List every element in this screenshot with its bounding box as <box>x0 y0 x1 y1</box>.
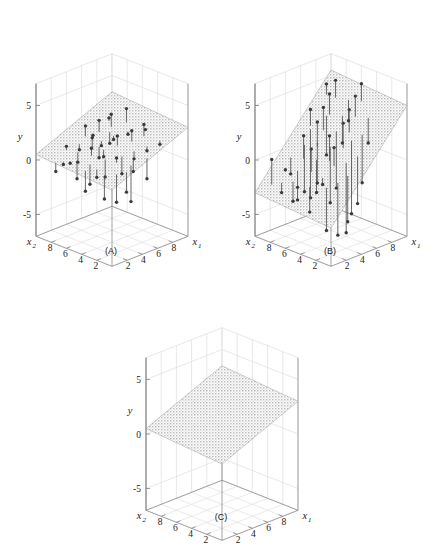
data-point <box>284 168 287 171</box>
data-point <box>341 141 344 144</box>
data-point <box>325 153 328 156</box>
data-point <box>367 141 370 144</box>
x1-axis-tick-label: 2 <box>126 261 131 271</box>
panel-c-caption: (C) <box>110 512 332 522</box>
data-point <box>115 156 118 159</box>
y-axis-tick-label: 5 <box>245 101 250 111</box>
x2-axis-tick <box>316 259 320 261</box>
y-axis-title: y <box>127 405 133 416</box>
panel-b-plot: 50-5y2468x18642x2 <box>219 8 441 248</box>
y-axis-title: y <box>17 131 23 142</box>
data-point <box>325 82 328 85</box>
data-point <box>132 157 135 160</box>
y-axis-tick-label: -5 <box>242 210 250 220</box>
data-point <box>325 229 328 232</box>
data-point <box>302 134 305 137</box>
x1-axis-tick-label: 4 <box>360 255 365 265</box>
data-point <box>116 134 119 137</box>
panel-b: 50-5y2468x18642x2 <box>219 8 441 248</box>
data-point <box>125 190 128 193</box>
data-point <box>78 148 81 151</box>
data-point <box>110 112 113 115</box>
x1-axis-tick <box>233 533 237 535</box>
data-point <box>270 158 273 161</box>
x2-axis-tick-label: 4 <box>188 529 193 539</box>
floor-gridline <box>97 212 173 242</box>
data-point <box>354 94 357 97</box>
data-point <box>103 175 106 178</box>
regression-plane <box>36 92 188 190</box>
data-point <box>316 120 319 123</box>
x1-axis-tick-label: 2 <box>236 535 241 545</box>
x2-axis-tick-label: 2 <box>93 261 98 271</box>
data-point <box>130 129 133 132</box>
x2-axis-tick-label: 4 <box>78 255 83 265</box>
data-point <box>291 200 294 203</box>
data-point <box>76 160 79 163</box>
data-point <box>328 134 331 137</box>
x1-axis-tick-label: 4 <box>141 255 146 265</box>
fitted-plane-surface <box>146 366 298 464</box>
x2-axis-tick-label: 2 <box>203 535 208 545</box>
data-point <box>360 82 363 85</box>
data-point <box>69 161 72 164</box>
y-axis-tick-label: -5 <box>23 210 31 220</box>
data-point <box>90 147 93 150</box>
data-point <box>145 149 148 152</box>
x2-axis-tick-label: 6 <box>173 523 178 533</box>
x1-axis-tick <box>388 241 392 243</box>
data-point <box>132 170 135 173</box>
x1-axis-tick-label: 4 <box>251 529 256 539</box>
x2-axis-tick-label: 4 <box>297 255 302 265</box>
x1-axis-tick <box>342 259 346 261</box>
data-point <box>360 181 363 184</box>
data-point <box>329 201 332 204</box>
panel-a-plot: 50-5y2468x18642x2 <box>0 8 222 248</box>
data-point <box>296 198 299 201</box>
data-point <box>102 155 105 158</box>
data-point <box>75 177 78 180</box>
panel-b-caption: (B) <box>219 246 441 256</box>
data-point <box>315 191 318 194</box>
y-axis-tick-label: 5 <box>136 375 141 385</box>
x2-axis-tick <box>207 533 211 535</box>
x1-axis-tick <box>123 259 127 261</box>
floor-gridline <box>51 212 127 242</box>
data-point <box>347 119 350 122</box>
x1-axis-tick <box>248 527 252 529</box>
data-point <box>350 212 353 215</box>
panel-a-caption: (A) <box>0 246 222 256</box>
data-point <box>336 233 339 236</box>
x2-axis-tick <box>97 259 101 261</box>
data-point <box>142 123 145 126</box>
data-point <box>84 190 87 193</box>
data-point <box>95 176 98 179</box>
data-point <box>308 210 311 213</box>
data-point <box>103 197 106 200</box>
data-point <box>334 79 337 82</box>
data-point <box>97 156 100 159</box>
data-point <box>65 145 68 148</box>
y-axis-title: y <box>236 131 242 142</box>
x1-axis-tick <box>169 241 173 243</box>
y-axis-tick-label: 0 <box>245 156 250 166</box>
data-point <box>62 163 65 166</box>
data-point <box>303 190 306 193</box>
data-point <box>316 181 319 184</box>
data-point <box>310 147 313 150</box>
data-point <box>91 134 94 137</box>
y-axis-tick-label: 0 <box>26 156 31 166</box>
floor-gridline <box>301 218 377 248</box>
regression-plane <box>146 366 298 464</box>
data-point <box>88 183 91 186</box>
data-point <box>328 92 331 95</box>
data-point <box>280 191 283 194</box>
data-point <box>321 183 324 186</box>
data-point <box>54 170 57 173</box>
data-point <box>309 196 312 199</box>
data-point <box>309 108 312 111</box>
data-point <box>158 143 161 146</box>
x2-axis-tick <box>270 241 274 243</box>
panel-a: 50-5y2468x18642x2 <box>0 8 222 248</box>
fitted-plane-surface <box>36 92 188 190</box>
